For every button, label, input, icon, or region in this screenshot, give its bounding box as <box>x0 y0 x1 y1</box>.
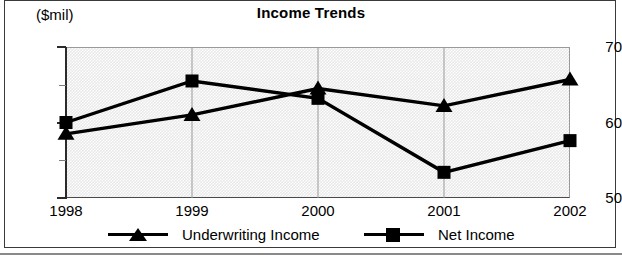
x-axis-tick-label: 1998 <box>21 203 111 218</box>
legend-item[interactable]: Underwriting Income <box>106 224 320 244</box>
legend-item[interactable]: Net Income <box>362 224 515 244</box>
x-axis-tick-label: 1999 <box>147 203 237 218</box>
legend-swatch <box>106 225 170 243</box>
series-plot <box>66 47 570 198</box>
chart-figure: Income Trends ($mil) 506070 Underwriting… <box>0 0 622 262</box>
chart-title: Income Trends <box>0 4 622 21</box>
data-point-square <box>564 134 577 147</box>
y-axis-tick-major <box>57 46 66 48</box>
y-axis-tick-label: 60 <box>568 115 622 130</box>
legend-marker-square-icon <box>386 228 400 242</box>
legend-label: Underwriting Income <box>182 226 320 243</box>
legend-swatch <box>362 225 426 243</box>
y-axis-tick-major <box>57 197 66 199</box>
chart-legend: Underwriting IncomeNet Income <box>66 224 570 244</box>
legend-label: Net Income <box>438 226 515 243</box>
x-axis-tick-label: 2000 <box>273 203 363 218</box>
legend-marker-triangle-icon <box>129 228 147 241</box>
data-point-square <box>60 116 73 129</box>
data-point-square <box>438 166 451 179</box>
y-axis-unit-label: ($mil) <box>36 6 74 23</box>
y-axis-tick-minor <box>59 160 66 161</box>
data-point-square <box>312 92 325 105</box>
x-axis-tick-label: 2002 <box>525 203 615 218</box>
page-rule <box>0 253 622 255</box>
data-point-square <box>186 74 199 87</box>
y-axis-tick-label: 70 <box>568 39 622 54</box>
x-axis-tick-label: 2001 <box>399 203 489 218</box>
y-axis-tick-minor <box>59 85 66 86</box>
gridlines <box>192 47 444 198</box>
